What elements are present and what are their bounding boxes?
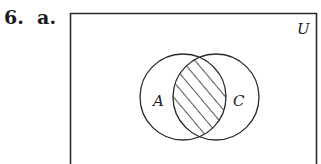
set-a-label: A <box>151 92 164 110</box>
venn-diagram: A C U <box>0 0 321 164</box>
set-c-label: C <box>233 92 245 110</box>
universe-label: U <box>297 20 311 38</box>
